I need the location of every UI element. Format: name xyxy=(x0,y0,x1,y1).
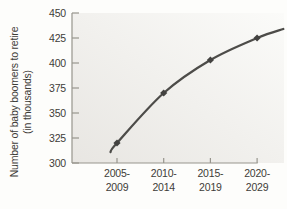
y-axis-title-line2: (in thousands) xyxy=(21,70,33,134)
x-tick-label-line2: 2019 xyxy=(199,181,222,193)
y-tick-label: 300 xyxy=(49,157,66,169)
plot-area xyxy=(72,13,284,163)
chart-svg: 3003253503754004254502005-20092010-20142… xyxy=(0,0,287,209)
y-tick-label: 375 xyxy=(49,82,66,94)
x-tick-label-line1: 2015- xyxy=(197,167,224,179)
x-tick-label-line2: 2014 xyxy=(152,181,175,193)
y-tick-label: 400 xyxy=(49,57,66,69)
y-tick-label: 325 xyxy=(49,132,66,144)
x-tick-label-line1: 2010- xyxy=(151,167,178,179)
x-tick-label-line2: 2009 xyxy=(106,181,129,193)
y-tick-label: 425 xyxy=(49,32,66,44)
x-tick-label-line1: 2020- xyxy=(244,167,271,179)
y-axis-title-line1: Number of baby boomers to retire xyxy=(8,26,20,177)
y-tick-label: 450 xyxy=(49,7,66,19)
chart-figure: 3003253503754004254502005-20092010-20142… xyxy=(0,0,287,209)
y-tick-label: 350 xyxy=(49,107,66,119)
x-tick-label-line2: 2029 xyxy=(246,181,269,193)
x-tick-label-line1: 2005- xyxy=(104,167,131,179)
